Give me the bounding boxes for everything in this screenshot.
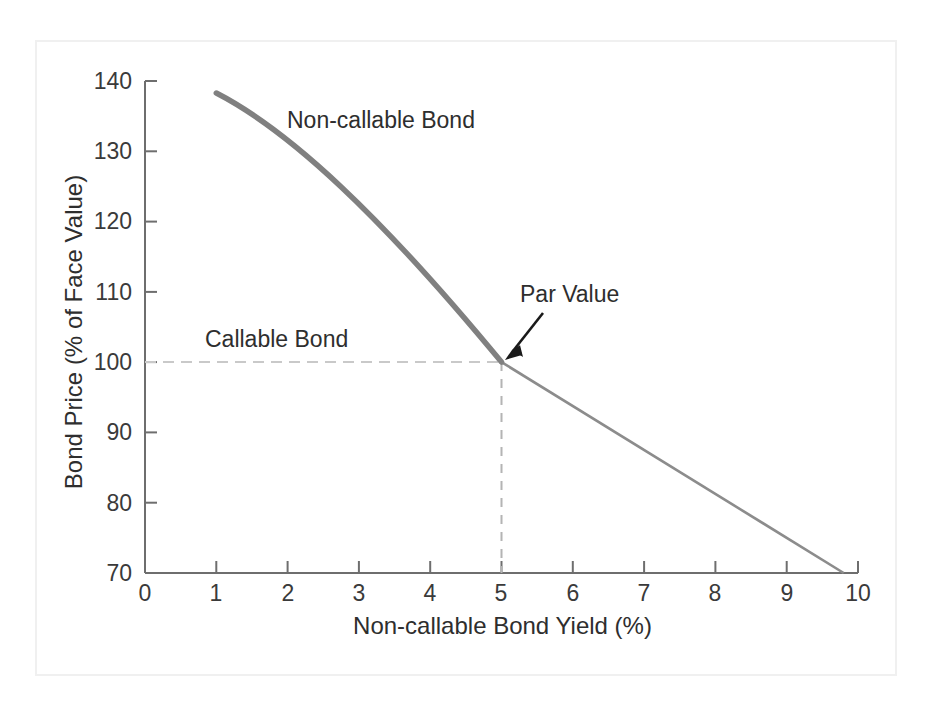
x-tick-label-8: 8: [695, 580, 735, 607]
x-tick-label-5: 5: [481, 580, 521, 607]
par-value-arrow: [505, 313, 543, 360]
x-tick-label-4: 4: [410, 580, 450, 607]
x-tick-label-3: 3: [339, 580, 379, 607]
annotation-par-value: Par Value: [520, 281, 619, 308]
x-axis-label: Non-callable Bond Yield (%): [145, 612, 860, 640]
chart-figure: 140 130 120 110 100 90 80 70 0 1 2 3 4 5…: [0, 0, 934, 712]
y-tick-label-70: 70: [72, 560, 132, 587]
x-tick-label-2: 2: [268, 580, 308, 607]
annotation-non-callable-bond: Non-callable Bond: [287, 107, 475, 134]
x-tick-label-10: 10: [838, 580, 878, 607]
x-tick-label-9: 9: [767, 580, 807, 607]
x-tick-label-0: 0: [125, 580, 165, 607]
x-tick-label-1: 1: [196, 580, 236, 607]
y-axis-ticks: [145, 81, 157, 573]
y-axis-label: Bond Price (% of Face Value): [60, 172, 88, 492]
x-tick-label-7: 7: [624, 580, 664, 607]
callable-bond-beyond-par-line: [502, 362, 844, 573]
x-tick-label-6: 6: [553, 580, 593, 607]
y-tick-label-140: 140: [72, 68, 132, 95]
annotation-callable-bond: Callable Bond: [205, 326, 348, 353]
y-tick-label-130: 130: [72, 138, 132, 165]
y-tick-label-80: 80: [72, 490, 132, 517]
